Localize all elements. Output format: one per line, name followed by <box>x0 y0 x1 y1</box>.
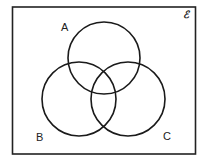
universal-set-symbol: ℰ <box>183 9 189 20</box>
circle-b <box>42 62 116 136</box>
label-a: A <box>61 22 68 33</box>
circle-c <box>91 62 165 136</box>
label-b: B <box>36 132 43 143</box>
venn-diagram <box>0 0 206 162</box>
label-c: C <box>163 131 171 142</box>
circle-a <box>68 22 140 94</box>
